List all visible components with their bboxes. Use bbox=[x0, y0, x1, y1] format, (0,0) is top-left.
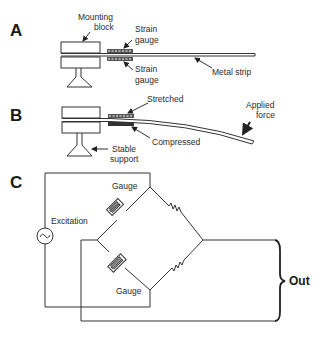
panel-a: A Mounting block Strain gauge Strain gau bbox=[10, 12, 255, 87]
label-stretched: Stretched bbox=[147, 94, 184, 104]
label-block: block bbox=[94, 22, 115, 32]
label-compressed: Compressed bbox=[152, 137, 200, 147]
mounting-block bbox=[61, 42, 100, 87]
gauge-icon-top bbox=[107, 199, 124, 216]
label-force: force bbox=[256, 110, 275, 120]
output-brace bbox=[275, 240, 285, 321]
arrow-stretched bbox=[128, 103, 148, 113]
panel-b: B Stretched Compressed Applied force Sta… bbox=[10, 94, 275, 164]
label-applied: Applied bbox=[246, 100, 275, 110]
label-gauge-top: Gauge bbox=[112, 181, 138, 191]
label-out: Out bbox=[289, 274, 310, 288]
label-strain-top-2: gauge bbox=[135, 35, 159, 45]
strain-gauge-pair-bent bbox=[108, 114, 134, 126]
panel-label-c: C bbox=[10, 173, 22, 192]
metal-strip bbox=[61, 54, 255, 57]
arrow-applied-force bbox=[243, 122, 250, 134]
panel-label-b: B bbox=[10, 106, 22, 125]
label-strain-top-1: Strain bbox=[135, 24, 157, 34]
strain-gauge-pair bbox=[107, 49, 133, 61]
panel-c: C Excitation Gau bbox=[10, 173, 310, 321]
label-strain-bottom-2: gauge bbox=[135, 75, 159, 85]
strain-gauge-diagram: A Mounting block Strain gauge Strain gau bbox=[0, 0, 326, 337]
arrow-strain-bottom bbox=[124, 62, 133, 70]
label-mounting: Mounting bbox=[78, 12, 113, 22]
arrow-strain-top bbox=[124, 40, 132, 48]
ac-source-icon bbox=[37, 228, 53, 244]
label-strain-bottom-1: Strain bbox=[135, 64, 157, 74]
label-excitation: Excitation bbox=[51, 216, 88, 226]
label-gauge-bottom: Gauge bbox=[116, 286, 142, 296]
panel-label-a: A bbox=[10, 21, 22, 40]
arrow-mounting-block bbox=[83, 32, 90, 41]
gauge-icon-bottom bbox=[108, 254, 126, 272]
label-metal-strip: Metal strip bbox=[212, 67, 251, 77]
arrow-metal-strip bbox=[195, 58, 212, 68]
arrow-compressed bbox=[132, 127, 150, 138]
label-stable: Stable bbox=[112, 144, 136, 154]
label-support: support bbox=[110, 154, 139, 164]
wheatstone-bridge bbox=[97, 187, 203, 290]
output-wiring bbox=[81, 240, 276, 321]
